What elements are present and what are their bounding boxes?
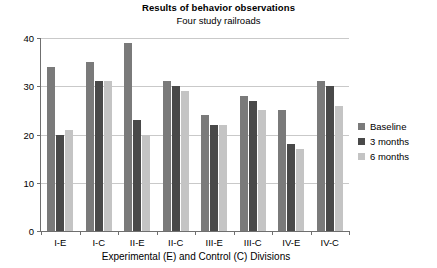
legend-item[interactable]: 6 months bbox=[358, 149, 436, 164]
chart-title: Results of behavior observations bbox=[0, 2, 437, 13]
bar[interactable] bbox=[317, 81, 325, 231]
bar[interactable] bbox=[258, 110, 266, 231]
chart-legend: Baseline3 months6 months bbox=[358, 119, 436, 164]
x-tick-mark bbox=[41, 231, 42, 235]
y-tick-label: 10 bbox=[23, 177, 34, 188]
y-tick-mark bbox=[37, 135, 41, 136]
chart-subtitle: Four study railroads bbox=[0, 15, 437, 26]
bar-group bbox=[86, 38, 112, 231]
legend-label: Baseline bbox=[370, 121, 406, 132]
bar-group bbox=[124, 38, 150, 231]
x-tick-label: III-C bbox=[244, 237, 262, 248]
legend-swatch-icon bbox=[358, 123, 365, 130]
bar[interactable] bbox=[278, 110, 286, 231]
x-tick-mark bbox=[157, 231, 158, 235]
x-tick-label: I-C bbox=[92, 237, 105, 248]
legend-item[interactable]: Baseline bbox=[358, 119, 436, 134]
x-tick-mark bbox=[118, 231, 119, 235]
y-tick-mark bbox=[37, 183, 41, 184]
plot-area: 010203040I-EI-CII-EII-CIII-EIII-CIV-EIV-… bbox=[40, 38, 349, 232]
bar[interactable] bbox=[142, 135, 150, 232]
bar[interactable] bbox=[249, 101, 257, 231]
x-tick-label: III-E bbox=[206, 237, 223, 248]
bar[interactable] bbox=[86, 62, 94, 231]
bar[interactable] bbox=[210, 125, 218, 231]
x-tick-label: IV-C bbox=[321, 237, 339, 248]
x-tick-label: I-E bbox=[54, 237, 66, 248]
x-tick-mark bbox=[195, 231, 196, 235]
legend-swatch-icon bbox=[358, 153, 365, 160]
bar[interactable] bbox=[95, 81, 103, 231]
bar[interactable] bbox=[56, 135, 64, 232]
bar[interactable] bbox=[163, 81, 171, 231]
bar[interactable] bbox=[240, 96, 248, 231]
y-tick-label: 40 bbox=[23, 33, 34, 44]
x-tick-label: II-C bbox=[168, 237, 183, 248]
bar[interactable] bbox=[172, 86, 180, 231]
bar[interactable] bbox=[133, 120, 141, 231]
bar[interactable] bbox=[181, 91, 189, 231]
x-tick-mark bbox=[234, 231, 235, 235]
x-tick-mark bbox=[80, 231, 81, 235]
y-tick-mark bbox=[37, 38, 41, 39]
bar[interactable] bbox=[65, 130, 73, 231]
bar-group bbox=[278, 38, 304, 231]
bar[interactable] bbox=[287, 144, 295, 231]
legend-label: 6 months bbox=[370, 151, 409, 162]
bar[interactable] bbox=[124, 43, 132, 231]
legend-swatch-icon bbox=[358, 138, 365, 145]
bar-group bbox=[163, 38, 189, 231]
y-tick-label: 20 bbox=[23, 129, 34, 140]
bar-group bbox=[47, 38, 73, 231]
x-tick-label: II-E bbox=[130, 237, 145, 248]
y-tick-mark bbox=[37, 86, 41, 87]
y-tick-label: 0 bbox=[29, 226, 34, 237]
x-tick-label: IV-E bbox=[282, 237, 300, 248]
bar[interactable] bbox=[47, 67, 55, 231]
x-tick-mark bbox=[272, 231, 273, 235]
x-tick-mark bbox=[311, 231, 312, 235]
bar[interactable] bbox=[201, 115, 209, 231]
x-axis-title: Experimental (E) and Control (C) Divisio… bbox=[0, 251, 392, 262]
y-tick-label: 30 bbox=[23, 81, 34, 92]
bar-group bbox=[317, 38, 343, 231]
x-tick-mark bbox=[349, 231, 350, 235]
bar[interactable] bbox=[335, 106, 343, 231]
legend-item[interactable]: 3 months bbox=[358, 134, 436, 149]
bar[interactable] bbox=[326, 86, 334, 231]
bar[interactable] bbox=[219, 125, 227, 231]
bar-group bbox=[201, 38, 227, 231]
bar[interactable] bbox=[104, 81, 112, 231]
bar[interactable] bbox=[296, 149, 304, 231]
legend-label: 3 months bbox=[370, 136, 409, 147]
bar-chart: Results of behavior observations Four st… bbox=[0, 0, 437, 268]
bar-group bbox=[240, 38, 266, 231]
